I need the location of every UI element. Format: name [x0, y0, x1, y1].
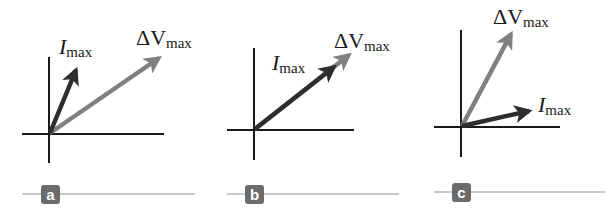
- voltage-label: ΔVmax: [493, 4, 549, 30]
- panel-b-badge: b: [245, 185, 264, 204]
- panel-a-badge: a: [41, 185, 60, 204]
- current-phasor-arrow: [255, 67, 334, 129]
- panel-c-badge: c: [452, 183, 471, 202]
- voltage-label: ΔVmax: [334, 28, 390, 54]
- panel-a: Imax ΔVmax: [22, 25, 192, 163]
- panel-b: Imax ΔVmax: [227, 28, 390, 160]
- panel-c: ΔVmax Imax: [434, 4, 572, 157]
- voltage-label: ΔVmax: [136, 25, 192, 51]
- current-label: Imax: [537, 92, 572, 118]
- voltage-phasor-arrow: [462, 34, 511, 126]
- current-label: Imax: [58, 34, 93, 60]
- current-label: Imax: [271, 50, 306, 76]
- current-phasor-arrow: [462, 111, 529, 126]
- phasor-diagram-canvas: Imax ΔVmax Imax ΔVmax ΔVmax Imax: [0, 0, 611, 216]
